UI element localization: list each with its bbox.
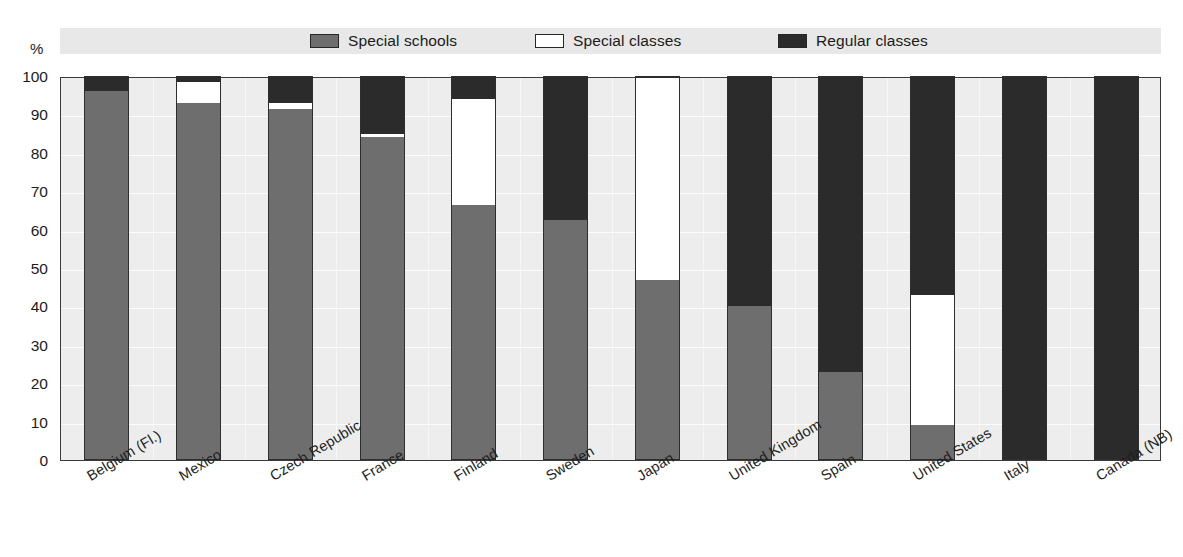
y-axis-tick-label: 10 [8,414,48,432]
bar-segment-special-schools [727,306,772,460]
bar-france[interactable] [360,76,405,460]
vertical-gridline [153,78,154,460]
vertical-gridline [336,78,337,460]
gridline [61,270,1160,271]
bar-segment-regular-classes [268,76,313,103]
bar-japan[interactable] [635,76,680,460]
gridline [61,308,1160,309]
bar-segment-special-classes [451,99,496,205]
bar-finland[interactable] [451,76,496,460]
bar-segment-regular-classes [910,76,955,295]
bar-segment-special-schools [635,280,680,460]
bar-italy[interactable] [1002,76,1047,460]
legend-label: Special schools [348,32,457,50]
bar-segment-regular-classes [1002,76,1047,460]
bar-segment-special-schools [268,109,313,460]
bar-czech-republic[interactable] [268,76,313,460]
legend-label: Regular classes [816,32,928,50]
bar-belgium-fl[interactable] [84,76,129,460]
bar-segment-special-schools [176,103,221,460]
gridline [61,385,1160,386]
legend-swatch-icon [310,34,339,48]
bar-sweden[interactable] [543,76,588,460]
y-axis-tick-label: 0 [8,452,48,470]
vertical-gridline [1070,78,1071,460]
y-axis-tick-label: 60 [8,222,48,240]
bar-segment-regular-classes [451,76,496,99]
bar-segment-regular-classes [84,76,129,91]
bar-segment-special-classes [268,103,313,109]
bar-segment-special-classes [910,295,955,426]
gridline [61,193,1160,194]
legend-swatch-icon [535,34,564,48]
bar-segment-special-classes [635,78,680,280]
bar-segment-regular-classes [543,76,588,220]
vertical-gridline [1162,78,1163,460]
vertical-gridline [979,78,980,460]
bar-segment-special-schools [84,91,129,460]
gridline [61,347,1160,348]
gridline [61,155,1160,156]
legend-item-special-schools: Special schools [310,28,457,54]
bar-segment-special-classes [360,134,405,138]
legend-item-special-classes: Special classes [535,28,681,54]
bar-segment-special-schools [543,220,588,460]
y-axis-unit-label: % [30,40,43,57]
vertical-gridline [520,78,521,460]
bar-united-states[interactable] [910,76,955,460]
bar-united-kingdom[interactable] [727,76,772,460]
y-axis-tick-label: 50 [8,260,48,278]
y-axis-tick-label: 40 [8,298,48,316]
bar-canada-nb[interactable] [1094,76,1139,460]
vertical-gridline [245,78,246,460]
bar-segment-special-schools [451,205,496,460]
y-axis-tick-label: 70 [8,183,48,201]
gridline [61,232,1160,233]
bar-spain[interactable] [818,76,863,460]
legend-item-regular-classes: Regular classes [778,28,928,54]
bar-segment-special-classes [176,82,221,103]
bar-mexico[interactable] [176,76,221,460]
legend-swatch-icon [778,34,807,48]
vertical-gridline [887,78,888,460]
vertical-gridline [703,78,704,460]
y-axis-tick-label: 100 [8,68,48,86]
bar-segment-regular-classes [360,76,405,134]
gridline [61,116,1160,117]
y-axis-tick-label: 20 [8,375,48,393]
gridline [61,424,1160,425]
vertical-gridline [428,78,429,460]
plot-inner [61,78,1160,460]
y-axis-tick-label: 30 [8,337,48,355]
legend-label: Special classes [573,32,681,50]
bar-segment-special-schools [360,137,405,460]
vertical-gridline [795,78,796,460]
bar-segment-regular-classes [818,76,863,372]
bar-segment-regular-classes [176,76,221,82]
bar-segment-regular-classes [727,76,772,306]
bar-segment-special-schools [818,372,863,460]
bar-segment-regular-classes [635,76,680,78]
y-axis-tick-label: 90 [8,106,48,124]
chart-plot-area [60,77,1161,461]
legend: Special schoolsSpecial classesRegular cl… [60,28,1161,54]
y-axis-tick-label: 80 [8,145,48,163]
bar-segment-regular-classes [1094,76,1139,460]
vertical-gridline [612,78,613,460]
